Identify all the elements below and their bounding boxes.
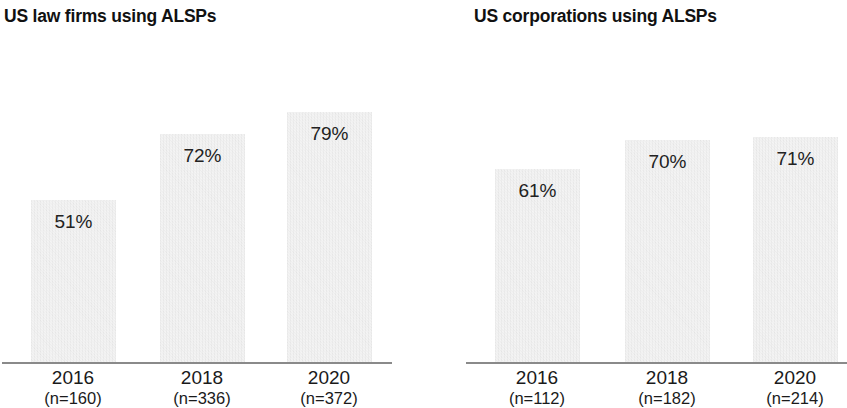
x-tick-year: 2020 [269, 368, 389, 389]
x-tick-year: 2020 [735, 368, 847, 389]
bar-value-label: 79% [287, 124, 372, 143]
x-tick-2016: 2016 (n=112) [477, 368, 597, 407]
x-tick-sample-size: (n=214) [735, 390, 847, 408]
x-tick-2018: 2018 (n=336) [142, 368, 262, 407]
chart-panel-corporations: US corporations using ALSPs 61% 70% 71% … [424, 0, 847, 408]
x-tick-2020: 2020 (n=214) [735, 368, 847, 407]
x-tick-year: 2016 [477, 368, 597, 389]
bar-value-label: 71% [753, 149, 838, 168]
bar-2018: 70% [625, 140, 710, 362]
plot-area-law-firms: 51% 72% 79% 2016 (n=160) 2018 (n=336) 20… [0, 0, 424, 408]
bar-2018: 72% [160, 134, 245, 362]
bar-value-label: 70% [625, 152, 710, 171]
x-tick-year: 2018 [142, 368, 262, 389]
bar-value-label: 72% [160, 146, 245, 165]
bar-value-label: 51% [31, 212, 116, 231]
x-tick-sample-size: (n=372) [269, 390, 389, 408]
bar-2016: 61% [495, 169, 580, 362]
x-tick-sample-size: (n=336) [142, 390, 262, 408]
x-tick-2016: 2016 (n=160) [13, 368, 133, 407]
x-axis-line [2, 362, 392, 364]
x-tick-sample-size: (n=160) [13, 390, 133, 408]
x-tick-sample-size: (n=112) [477, 390, 597, 408]
x-tick-2020: 2020 (n=372) [269, 368, 389, 407]
x-tick-year: 2018 [607, 368, 727, 389]
plot-area-corporations: 61% 70% 71% 2016 (n=112) 2018 (n=182) 20… [424, 0, 847, 408]
x-tick-year: 2016 [13, 368, 133, 389]
chart-panel-law-firms: US law firms using ALSPs 51% 72% 79% 201… [0, 0, 424, 408]
bar-value-label: 61% [495, 181, 580, 200]
x-axis-line [466, 362, 847, 364]
bar-2016: 51% [31, 200, 116, 362]
x-tick-sample-size: (n=182) [607, 390, 727, 408]
x-tick-2018: 2018 (n=182) [607, 368, 727, 407]
bar-2020: 71% [753, 137, 838, 362]
bar-2020: 79% [287, 112, 372, 362]
